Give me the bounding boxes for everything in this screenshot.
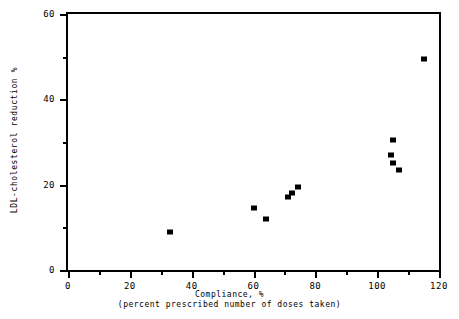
x-axis-minor-tick	[161, 270, 163, 275]
data-point	[263, 216, 269, 221]
x-axis-tick	[439, 270, 441, 278]
x-axis-title-line2: (percent prescribed number of doses take…	[0, 300, 459, 310]
data-point	[251, 206, 257, 211]
y-axis-minor-tick	[63, 227, 68, 229]
data-point	[289, 191, 295, 196]
data-point	[285, 195, 291, 200]
data-point	[390, 137, 396, 142]
y-axis-tick-label: 40	[43, 94, 55, 104]
x-axis-title-line1: Compliance, %	[0, 290, 459, 300]
x-axis-minor-tick	[284, 270, 286, 275]
data-point	[390, 161, 396, 166]
y-axis-tick	[60, 14, 68, 16]
x-axis-tick	[315, 270, 317, 278]
data-point	[295, 184, 301, 189]
plot-area: 0204060020406080100120	[66, 12, 441, 272]
x-axis-tick	[377, 270, 379, 278]
x-axis-tick	[68, 270, 70, 278]
x-axis-tick	[192, 270, 194, 278]
y-axis-tick-label: 60	[43, 9, 55, 19]
y-axis-tick	[60, 270, 68, 272]
data-point	[421, 56, 427, 61]
x-axis-title: Compliance, % (percent prescribed number…	[0, 290, 459, 310]
y-axis-tick-label: 20	[43, 180, 55, 190]
x-axis-minor-tick	[408, 270, 410, 275]
scatter-plot-figure: 0204060020406080100120 LDL-cholesterol r…	[0, 0, 459, 319]
y-axis-tick	[60, 185, 68, 187]
data-point	[396, 167, 402, 172]
y-axis-tick	[60, 99, 68, 101]
x-axis-minor-tick	[346, 270, 348, 275]
x-axis-minor-tick	[223, 270, 225, 275]
x-axis-tick	[130, 270, 132, 278]
x-axis-minor-tick	[99, 270, 101, 275]
x-axis-tick	[254, 270, 256, 278]
y-axis-minor-tick	[63, 57, 68, 59]
y-axis-title: LDL-cholesterol reduction %	[10, 67, 19, 213]
data-point	[167, 229, 173, 234]
y-axis-minor-tick	[63, 142, 68, 144]
data-point	[388, 152, 394, 157]
y-axis-tick-label: 0	[49, 265, 55, 275]
